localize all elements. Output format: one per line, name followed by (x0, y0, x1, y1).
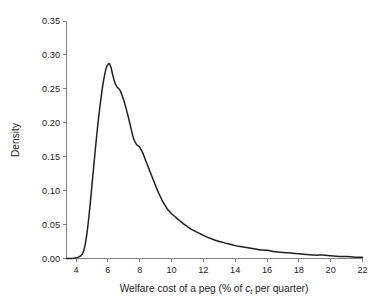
x-tick-label: 16 (262, 265, 272, 275)
x-tick-label: 14 (230, 265, 240, 275)
y-tick-label: 0.30 (42, 50, 60, 60)
y-tick-label: 0.10 (42, 186, 60, 196)
x-tick-label: 12 (198, 265, 208, 275)
y-tick-label: 0.25 (42, 84, 60, 94)
x-tick-label: 6 (105, 265, 110, 275)
x-tick-label: 10 (166, 265, 176, 275)
x-axis-title-prefix: Welfare cost of a peg (% of (120, 283, 246, 294)
x-tick-label: 18 (294, 265, 304, 275)
y-axis-title: Density (10, 122, 21, 157)
density-plot: 0.000.050.100.150.200.250.300.35 4681012… (0, 0, 378, 308)
y-tick-label: 0.00 (42, 254, 60, 264)
x-tick-label: 22 (357, 265, 367, 275)
y-tick-label: 0.15 (42, 152, 60, 162)
x-tick-label: 20 (326, 265, 336, 275)
x-tick-label: 4 (73, 265, 78, 275)
chart-figure: 0.000.050.100.150.200.250.300.35 4681012… (0, 0, 378, 308)
x-axis-title-suffix: per quarter) (252, 283, 308, 294)
x-tick-label: 8 (137, 265, 142, 275)
y-tick-label: 0.05 (42, 220, 60, 230)
y-tick-label: 0.20 (42, 118, 60, 128)
y-tick-label: 0.35 (42, 16, 60, 26)
